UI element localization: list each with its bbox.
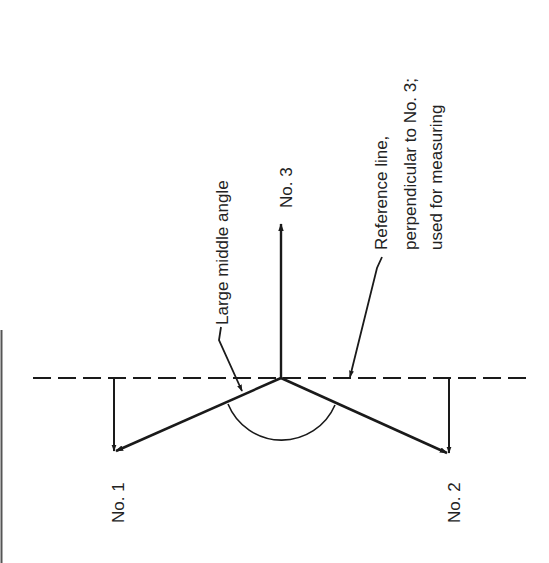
reference-line-leader — [350, 257, 382, 377]
middle-angle-arc — [228, 404, 335, 440]
label-no2: No. 2 — [445, 482, 464, 523]
vector-no1-arrow — [116, 378, 281, 451]
label-reference-line-3: used for measuring — [427, 104, 446, 250]
diagram-canvas: No. 1 No. 2 No. 3 Large middle angle Ref… — [0, 0, 549, 563]
label-middle-angle: Large middle angle — [213, 180, 232, 325]
middle-angle-leader — [219, 327, 242, 391]
label-no3: No. 3 — [277, 167, 296, 208]
label-no1: No. 1 — [109, 482, 128, 523]
label-reference-line-2: perpendicular to No. 3; — [401, 78, 420, 250]
vector-no2-arrow — [281, 378, 447, 453]
label-reference-line-1: Reference line, — [372, 136, 391, 250]
